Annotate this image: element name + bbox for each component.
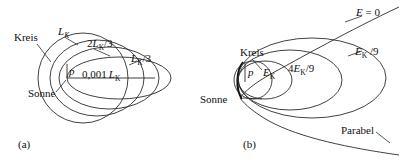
figure-canvas: Kreis LK 2LK/3 LK/3 p 0,001LK Sonne (a) [0,0,401,161]
label-sonne-a: Sonne [28,87,56,99]
label-sonne-b: Sonne [200,93,228,105]
caption-panel-b: (b) [243,138,256,151]
label-lk: LK [57,25,70,40]
label-radius-a: 0,001LK [82,68,121,83]
label-parabel: Parabel [341,124,374,136]
panel-b-group: Kreis Sonne p EK 4EK/9 EK /9 E = 0 Parab… [200,6,399,155]
panel-a-group: Kreis LK 2LK/3 LK/3 p 0,001LK Sonne (a) [14,25,171,151]
orbit-ellipse-4ek-9 [238,50,342,110]
label-kreis-a: Kreis [14,31,38,43]
leader-sonne-a [56,80,66,92]
leader-kreis-a [37,44,51,62]
leader-kreis-b [252,59,262,70]
label-kreis-b: Kreis [240,46,264,58]
label-4ek-9: 4EK/9 [288,62,315,77]
kepler-orbits-figure: Kreis LK 2LK/3 LK/3 p 0,001LK Sonne (a) [0,0,401,161]
caption-panel-a: (a) [18,138,31,151]
leader-parabel [376,132,390,143]
label-e-zero: E = 0 [355,6,380,18]
orbit-parabola [240,7,399,155]
label-p-b: p [247,66,254,78]
label-p-a: p [68,65,75,77]
